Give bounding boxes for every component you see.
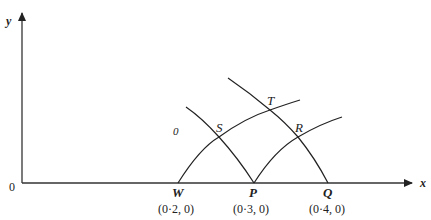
point-q-coord: (0·4, 0) (309, 202, 345, 216)
curve-p-s (186, 107, 254, 183)
x-axis-label: x (419, 176, 426, 190)
point-w-label: W (172, 185, 185, 200)
point-q-label: Q (323, 185, 333, 200)
point-r-label: R (294, 120, 303, 135)
origin-label: 0 (9, 180, 15, 194)
point-w-coord: (0·2, 0) (158, 202, 194, 216)
curve-w-s-t (178, 100, 300, 183)
region-label: 0 (173, 125, 179, 137)
point-p-label: P (249, 185, 258, 200)
characteristics-diagram: y x 0 0 W (0·2, 0) P (0·3, 0) Q (0·4, 0)… (0, 0, 431, 220)
point-t-label: T (267, 93, 275, 108)
point-s-label: S (216, 120, 223, 135)
y-axis-label: y (4, 14, 12, 28)
point-p-coord: (0·3, 0) (233, 202, 269, 216)
